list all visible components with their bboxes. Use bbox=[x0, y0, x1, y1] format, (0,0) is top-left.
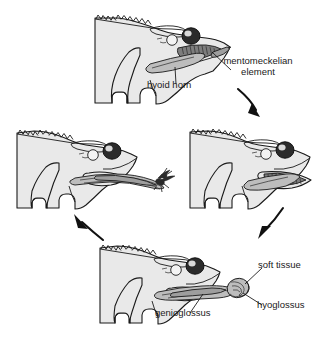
panel-left-tongue-capture bbox=[17, 130, 175, 209]
eye bbox=[103, 143, 121, 159]
tongue-projection-diagram: mentomeckelian element hyoid horn soft t… bbox=[0, 0, 317, 343]
eye bbox=[182, 28, 200, 44]
tympanum bbox=[88, 150, 99, 161]
eye-highlight bbox=[278, 145, 285, 151]
eye-highlight bbox=[105, 146, 112, 152]
label-hyoid-horn: hyoid horn bbox=[147, 79, 191, 90]
label-mentomeckelian-element: mentomeckelian element bbox=[204, 55, 312, 77]
eye bbox=[276, 142, 294, 158]
panel-right-mouth-open bbox=[190, 129, 311, 209]
tympanum bbox=[261, 149, 272, 160]
tympanum bbox=[171, 265, 182, 276]
label-genioglossus: genioglossus bbox=[155, 307, 210, 318]
arrow-right-to-bottom bbox=[258, 208, 283, 239]
eye bbox=[186, 258, 204, 274]
diagram-canvas bbox=[0, 0, 317, 343]
eye-highlight bbox=[188, 261, 195, 267]
arrow-bottom-to-left bbox=[74, 214, 103, 240]
eye-highlight bbox=[184, 31, 191, 37]
arrow-top-to-right bbox=[238, 89, 260, 117]
leader-soft-tissue bbox=[245, 268, 262, 284]
tympanum bbox=[167, 35, 178, 46]
label-soft-tissue: soft tissue bbox=[258, 259, 301, 270]
label-hyoglossus: hyoglossus bbox=[257, 299, 305, 310]
tongue-tip-bulb bbox=[225, 276, 252, 301]
